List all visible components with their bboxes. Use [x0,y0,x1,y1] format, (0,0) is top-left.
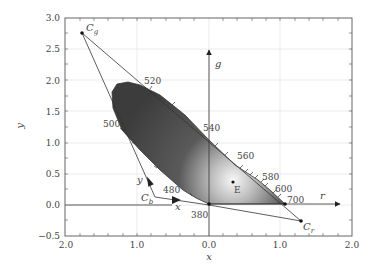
y-tick-labels: 3.0 2.5 2.0 1.5 1.0 0.5 0.0 −0.5 [38,13,60,241]
cb-label: Cb [141,192,154,206]
wl-520: 520 [144,76,161,86]
wl-380: 380 [191,210,208,220]
y-tick: 2.0 [46,76,61,86]
wl-480: 480 [163,185,180,195]
cr-label: Cr [303,221,315,235]
r-axis-label: r [320,190,326,201]
chromaticity-chart: 3.0 2.5 2.0 1.5 1.0 0.5 0.0 −0.5 2.0 1.0… [0,0,374,277]
y-axis-title: y [14,123,25,130]
cg-point [80,31,84,35]
y-tick: −0.5 [38,231,60,241]
wl-600: 600 [275,184,292,194]
x-axis-title: x [206,251,212,262]
x-arrow-label: x [175,201,181,212]
wl-500: 500 [103,119,120,129]
x-tick: 2.0 [345,240,360,250]
y-tick: 0.0 [46,200,61,210]
y-arrow-label: y [136,174,143,185]
y-tick: 1.0 [46,138,61,148]
wl-700: 700 [287,195,304,205]
x-tick: 2.0 [59,240,74,250]
y-tick: 0.5 [46,169,61,179]
y-tick: 3.0 [46,13,61,23]
point-380 [207,202,211,206]
white-point-label: E [234,185,241,195]
x-tick-labels: 2.0 1.0 0.0 1.0 2.0 [59,240,360,250]
wl-560: 560 [237,151,254,161]
x-tick: 0.0 [202,240,217,250]
y-tick: 2.5 [46,44,61,54]
x-tick: 1.0 [130,240,145,250]
g-axis-label: g [215,58,221,69]
x-tick: 1.0 [273,240,288,250]
white-point-e [231,180,234,183]
wl-540: 540 [203,123,220,133]
wl-580: 580 [262,172,279,182]
y-tick: 1.5 [46,107,61,117]
cg-label: Cg [86,22,99,36]
